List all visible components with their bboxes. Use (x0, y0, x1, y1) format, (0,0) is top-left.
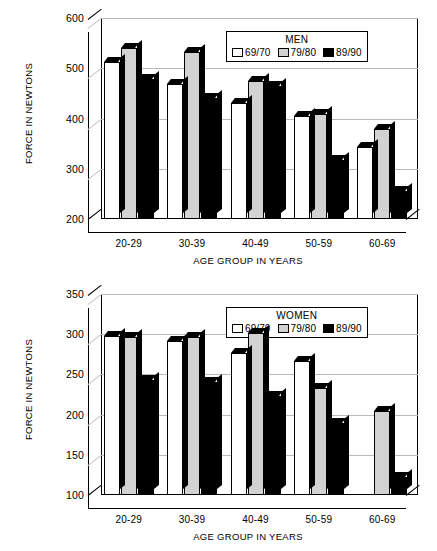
chart-panel-women: FORCE IN NEWTONS 350300250200150100 20-2… (0, 276, 437, 551)
bar-side-face (247, 96, 252, 213)
bar-men-60-69-69-70 (357, 147, 373, 219)
legend-item-79-80: 79/80 (278, 323, 317, 334)
y-tick-label: 400 (42, 114, 84, 124)
bar-side-face (264, 325, 269, 489)
legend-items-men: 69/7079/8089/90 (232, 47, 362, 58)
bar-side-face (154, 372, 159, 489)
bar-top-face (231, 98, 249, 103)
y-axis-ticks-women: 350300250200150100 (42, 276, 84, 551)
bar-side-face (217, 90, 222, 213)
legend-swatch-icon (278, 48, 289, 57)
legend-swatch-icon (232, 48, 243, 57)
bar-men-50-59-69-70 (294, 116, 310, 219)
chart-page: FORCE IN NEWTONS 600500400300200 20-2930… (0, 0, 437, 551)
y-tick-label: 250 (42, 369, 84, 379)
bar-side-face (264, 73, 269, 213)
legend-item-label: 89/90 (336, 47, 362, 58)
legend-item-89-90: 89/90 (323, 47, 362, 58)
y-tick-label: 300 (42, 329, 84, 339)
bar-side-face (407, 183, 412, 213)
bar-top-face (248, 76, 266, 81)
legend-item-label: 89/90 (336, 323, 362, 334)
y-axis-ticks-men: 600500400300200 (42, 0, 84, 275)
y-axis-title-men: FORCE IN NEWTONS (23, 34, 34, 194)
legend-title-women: WOMEN (232, 310, 362, 321)
bar-women-40-49-69-70 (231, 353, 247, 495)
bar-side-face (200, 329, 205, 488)
bar-side-face (373, 139, 378, 213)
bar-side-face (310, 108, 315, 213)
bar-side-face (344, 152, 349, 213)
bar-women-50-59-69-70 (294, 361, 310, 495)
bar-women-20-29-69-70 (104, 336, 120, 495)
x-tick-label: 50-59 (306, 238, 333, 249)
x-tick-label: 40-49 (242, 238, 269, 249)
legend-men: MEN 69/7079/8089/90 (226, 31, 368, 62)
bar-side-face (137, 329, 142, 489)
y-tick-label: 200 (42, 214, 84, 224)
y-axis-title-women: FORCE IN NEWTONS (23, 310, 34, 470)
x-tick-label: 60-69 (369, 238, 396, 249)
bar-women-30-39-69-70 (167, 341, 183, 495)
bar-side-face (137, 40, 142, 213)
legend-swatch-icon (278, 324, 289, 333)
legend-title-men: MEN (232, 34, 362, 45)
x-axis-ticks-men: 20-2930-3940-4950-5960-69 (88, 238, 428, 254)
y-tick-label: 600 (42, 13, 84, 23)
bar-side-face (200, 44, 205, 213)
bar-side-face (154, 71, 159, 213)
x-tick-label: 20-29 (115, 514, 142, 525)
bar-top-face (248, 328, 266, 333)
y-tick-label: 150 (42, 450, 84, 460)
x-tick-label: 30-39 (179, 514, 206, 525)
legend-item-label: 69/70 (245, 47, 271, 58)
bar-side-face (281, 78, 286, 213)
legend-item-label: 79/80 (291, 47, 317, 58)
legend-item-69-70: 69/70 (232, 47, 271, 58)
legend-item-label: 79/80 (291, 323, 317, 334)
legend-swatch-icon (232, 324, 243, 333)
bar-side-face (217, 375, 222, 489)
bar-side-face (390, 403, 395, 489)
x-axis-title-women: AGE GROUP IN YEARS (88, 531, 408, 542)
bar-side-face (344, 415, 349, 489)
chart-panel-men: FORCE IN NEWTONS 600500400300200 20-2930… (0, 0, 437, 275)
bar-top-face (121, 43, 139, 48)
y-tick-label: 500 (42, 63, 84, 73)
y-tick-label: 100 (42, 490, 84, 500)
bar-side-face (120, 328, 125, 489)
x-tick-label: 30-39 (179, 238, 206, 249)
bar-side-face (120, 54, 125, 213)
bar-side-face (327, 107, 332, 213)
bar-side-face (327, 380, 332, 489)
bar-women-60-69-79-80 (374, 411, 390, 495)
x-tick-label: 20-29 (115, 238, 142, 249)
x-tick-label: 50-59 (306, 514, 333, 525)
bar-side-face (183, 76, 188, 213)
bar-side-face (390, 121, 395, 213)
x-axis-ticks-women: 20-2930-3940-4950-5960-69 (88, 514, 428, 530)
x-tick-label: 40-49 (242, 514, 269, 525)
y-tick-label: 300 (42, 164, 84, 174)
x-axis-title-men: AGE GROUP IN YEARS (88, 255, 408, 266)
legend-swatch-icon (323, 324, 334, 333)
legend-item-89-90: 89/90 (323, 323, 362, 334)
y-tick-label: 350 (42, 289, 84, 299)
bar-side-face (281, 388, 286, 489)
bar-side-face (247, 345, 252, 489)
bar-side-face (183, 334, 188, 489)
legend-item-79-80: 79/80 (278, 47, 317, 58)
bar-top-face (104, 57, 122, 62)
x-tick-label: 60-69 (369, 514, 396, 525)
bar-top-face (231, 348, 249, 353)
bar-side-face (407, 469, 412, 489)
bar-men-30-39-69-70 (167, 84, 183, 219)
bar-top-face (104, 331, 122, 336)
legend-swatch-icon (323, 48, 334, 57)
bar-side-face (310, 353, 315, 489)
y-tick-label: 200 (42, 410, 84, 420)
bar-men-20-29-69-70 (104, 62, 120, 219)
bar-men-40-49-69-70 (231, 103, 247, 219)
